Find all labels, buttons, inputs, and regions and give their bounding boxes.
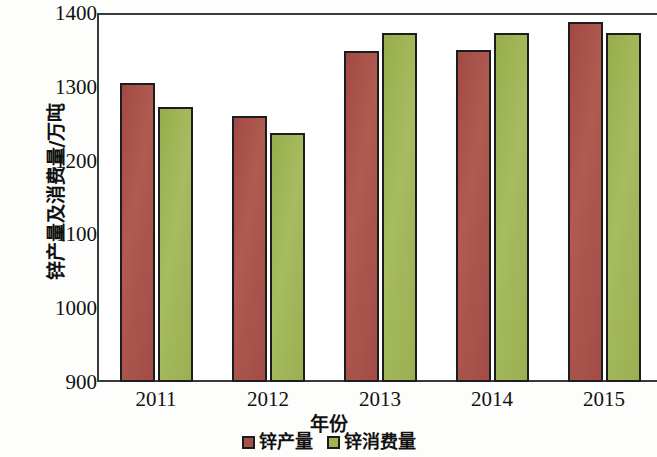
consumption-swatch-icon <box>327 436 340 449</box>
bar-2014-series-1 <box>494 33 529 382</box>
legend-item-production[interactable]: 锌产量 <box>242 433 313 451</box>
chart-legend: 锌产量锌消费量 <box>0 433 657 451</box>
legend-label: 锌产量 <box>259 433 313 451</box>
bar-2013-series-0 <box>344 51 379 382</box>
legend-label: 锌消费量 <box>344 433 416 451</box>
bar-2011-series-1 <box>158 107 193 382</box>
bar-2013-series-1 <box>382 33 417 382</box>
x-axis-title: 年份 <box>0 409 657 436</box>
bar-2015-series-1 <box>606 33 641 382</box>
bar-2011-series-0 <box>120 83 155 382</box>
bar-2015-series-0 <box>568 22 603 382</box>
bar-2012-series-1 <box>270 133 305 382</box>
bar-chart: 锌产量及消费量/万吨 90010001100120013001400 20112… <box>0 0 657 457</box>
production-swatch-icon <box>242 436 255 449</box>
legend-item-consumption[interactable]: 锌消费量 <box>327 433 416 451</box>
bar-2014-series-0 <box>456 50 491 382</box>
bar-2012-series-0 <box>232 116 267 382</box>
